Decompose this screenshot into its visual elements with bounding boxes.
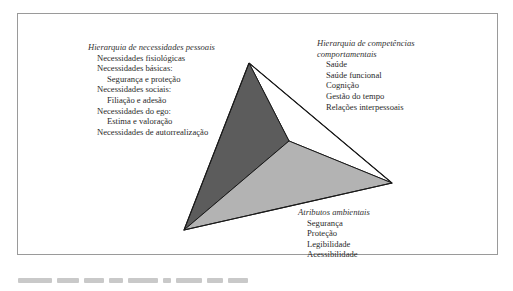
personal-needs-item: Necessidades de autorrealização: [88, 127, 215, 138]
environmental-attributes-title: Atributos ambientais: [298, 207, 370, 218]
environmental-attributes-item: Legibilidade: [298, 239, 370, 250]
environmental-attributes-item: Acessibilidade: [298, 249, 370, 260]
personal-needs-subitem: Segurança e proteção: [88, 74, 215, 85]
behavioral-competencies-title-line2: comportamentais: [317, 49, 415, 60]
behavioral-competencies-title-line1: Hierarquia de competências: [317, 38, 415, 49]
behavioral-competencies-item: Relações interpessoais: [317, 102, 415, 113]
personal-needs-label: Hierarquia de necessidades pessoais Nece…: [88, 42, 215, 137]
behavioral-competencies-item: Saúde funcional: [317, 70, 415, 81]
personal-needs-title: Hierarquia de necessidades pessoais: [88, 42, 215, 53]
behavioral-competencies-item: Cognição: [317, 80, 415, 91]
behavioral-competencies-item: Saúde: [317, 59, 415, 70]
personal-needs-item: Necessidades fisiológicas: [88, 53, 215, 64]
personal-needs-item: Necessidades do ego:: [88, 106, 215, 117]
tetrahedron-diagram: [0, 0, 513, 291]
environmental-attributes-label: Atributos ambientais Segurança Proteção …: [298, 207, 370, 260]
personal-needs-item: Necessidades sociais:: [88, 84, 215, 95]
environmental-attributes-item: Proteção: [298, 228, 370, 239]
behavioral-competencies-item: Gestão do tempo: [317, 91, 415, 102]
environmental-attributes-item: Segurança: [298, 218, 370, 229]
figure-caption-illegible: [18, 276, 248, 284]
behavioral-competencies-label: Hierarquia de competências comportamenta…: [317, 38, 415, 112]
personal-needs-subitem: Filiação e adesão: [88, 95, 215, 106]
personal-needs-subitem: Estima e valoração: [88, 116, 215, 127]
personal-needs-item: Necessidades básicas:: [88, 63, 215, 74]
